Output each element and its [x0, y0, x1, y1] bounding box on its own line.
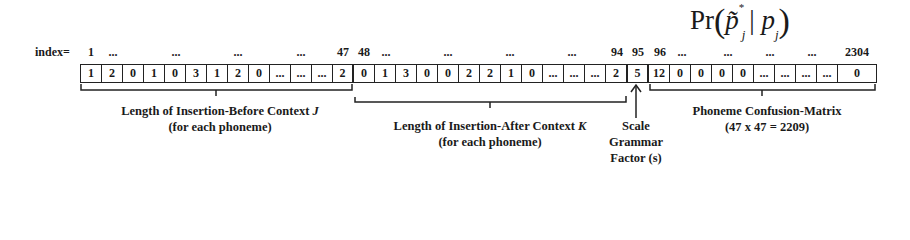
- label-insertion-before: Length of Insertion-Before Context J (fo…: [100, 103, 340, 135]
- label-confusion-matrix: Phoneme Confusion-Matrix (47 x 47 = 2209…: [682, 103, 852, 135]
- brace-insertion-before: [81, 84, 352, 90]
- brace-insertion-after: [355, 96, 626, 102]
- label-insertion-after: Length of Insertion-After Context K (for…: [370, 118, 610, 150]
- label-scale-grammar-factor: Scale Grammar Factor (s): [606, 118, 666, 166]
- brace-confusion-matrix: [650, 84, 875, 90]
